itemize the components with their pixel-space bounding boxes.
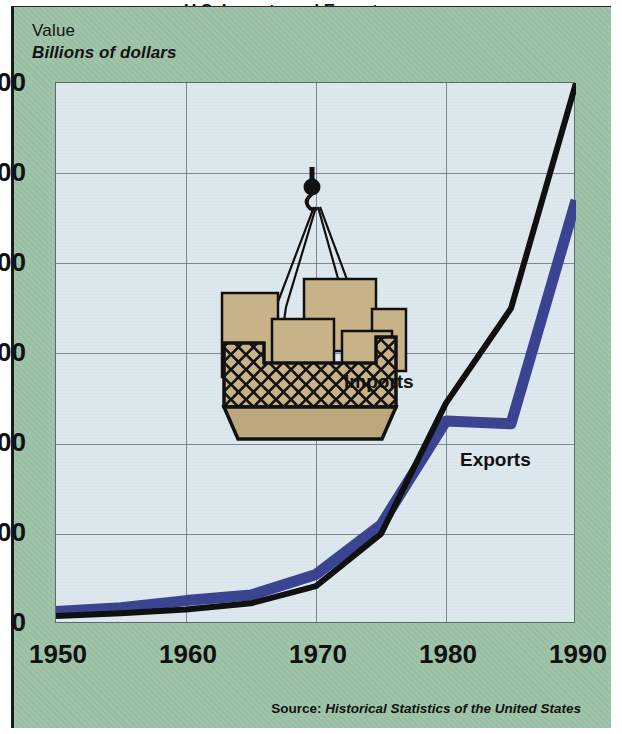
chart-screenshot: U.S. Imports and Exports Value Billions … (0, 0, 622, 734)
x-tick-1990: 1990 (523, 641, 622, 667)
y-tick-400: 400 (0, 249, 26, 275)
source-title: Historical Statistics of the United Stat… (325, 701, 581, 716)
y-tick-0: 0 (0, 609, 26, 635)
cargo-net-crane-illustration (186, 167, 454, 459)
imports-label: Imports (344, 371, 414, 393)
x-tick-1950: 1950 (3, 641, 113, 667)
plot-area: Imports Exports (55, 82, 575, 623)
source-lead: Source: (271, 701, 321, 716)
crane-ball (304, 179, 321, 196)
source-note: Source: Historical Statistics of the Uni… (271, 701, 581, 716)
units-caption: Billions of dollars (32, 43, 177, 63)
value-caption: Value (32, 21, 75, 41)
y-tick-500: 500 (0, 159, 26, 185)
x-tick-1970: 1970 (263, 641, 373, 667)
y-tick-100: 100 (0, 519, 26, 545)
y-tick-300: 300 (0, 339, 26, 365)
net-bottom (224, 407, 396, 439)
chart-title-cutoff: U.S. Imports and Exports (184, 1, 484, 6)
x-tick-1980: 1980 (393, 641, 503, 667)
x-tick-1960: 1960 (133, 641, 243, 667)
y-tick-200: 200 (0, 429, 26, 455)
exports-label: Exports (460, 449, 531, 471)
y-tick-600: 600 (0, 69, 26, 95)
